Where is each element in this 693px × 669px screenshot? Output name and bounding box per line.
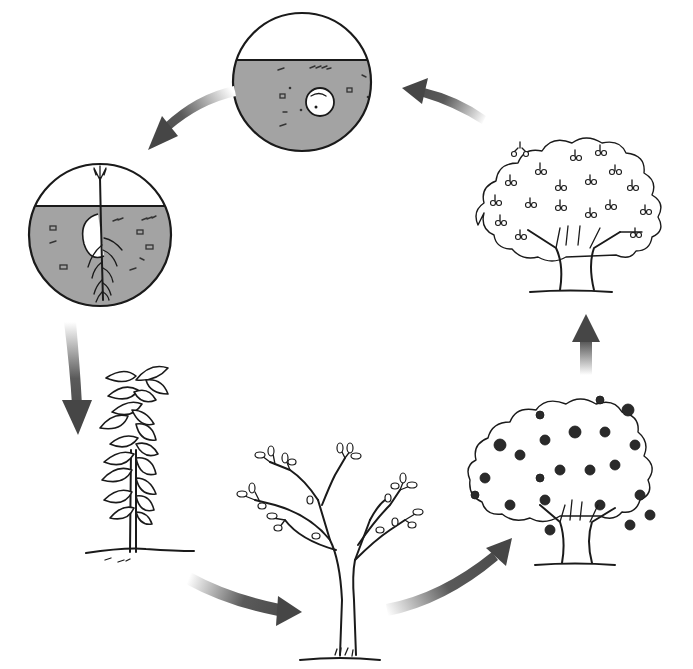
arrow-seed-to-germination	[148, 86, 236, 150]
arrow-germination-to-seedling	[62, 322, 92, 435]
arrow-fruiting-tree-to-seed	[402, 78, 486, 124]
mature-tree-canopy	[468, 399, 652, 522]
stage-mature-tree	[468, 396, 655, 565]
stage-seed	[230, 13, 380, 160]
stage-young-tree	[237, 443, 423, 660]
arrow-seedling-to-young-tree	[186, 572, 302, 626]
stage-germination	[25, 164, 175, 316]
stage-fruiting-tree	[476, 138, 661, 292]
sapling-leaves	[100, 367, 168, 525]
seed-icon	[306, 88, 334, 116]
fruiting-tree-canopy	[476, 138, 661, 261]
arrow-mature-tree-to-fruiting-tree	[572, 314, 600, 378]
soil	[230, 60, 380, 160]
stage-seedling	[86, 367, 194, 563]
arrow-young-tree-to-mature-tree	[386, 538, 512, 616]
plant-life-cycle-diagram	[0, 0, 693, 669]
